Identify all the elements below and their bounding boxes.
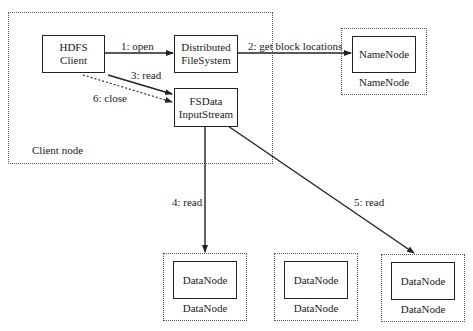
hdfs-client-line2: Client <box>60 54 87 67</box>
edge-label-read-3: 3: read <box>131 69 161 81</box>
namenode-inner-label: NameNode <box>359 48 409 61</box>
hdfs-client-node[interactable]: HDFS Client <box>42 35 105 73</box>
fsdata-line2: InputStream <box>179 108 233 121</box>
distributed-fs-line2: FileSystem <box>181 54 231 67</box>
datanode-1-caption: DataNode <box>163 302 247 314</box>
distributed-filesystem-node[interactable]: Distributed FileSystem <box>174 35 238 73</box>
edge-label-read-5: 5: read <box>354 196 384 208</box>
datanode-3-node[interactable]: DataNode <box>391 262 455 300</box>
edge-label-get-block-locations: 2: get block locations <box>248 40 342 52</box>
fsdata-inputstream-node[interactable]: FSData InputStream <box>174 88 238 127</box>
datanode-1-inner-label: DataNode <box>183 274 228 287</box>
datanode-2-inner-label: DataNode <box>294 274 339 287</box>
datanode-2-caption: DataNode <box>274 302 358 314</box>
datanode-3-inner-label: DataNode <box>401 275 446 288</box>
client-node-label: Client node <box>32 144 83 156</box>
edge-label-close: 6: close <box>93 92 127 104</box>
datanode-3-caption: DataNode <box>381 303 465 315</box>
edge-label-read-4: 4: read <box>172 196 202 208</box>
fsdata-line1: FSData <box>190 95 223 108</box>
namenode-node[interactable]: NameNode <box>352 36 416 73</box>
hdfs-client-line1: HDFS <box>59 41 87 54</box>
datanode-1-node[interactable]: DataNode <box>173 261 237 299</box>
distributed-fs-line1: Distributed <box>181 41 231 54</box>
namenode-caption: NameNode <box>341 76 427 88</box>
edge-label-open: 1: open <box>121 40 154 52</box>
datanode-2-node[interactable]: DataNode <box>284 261 348 299</box>
